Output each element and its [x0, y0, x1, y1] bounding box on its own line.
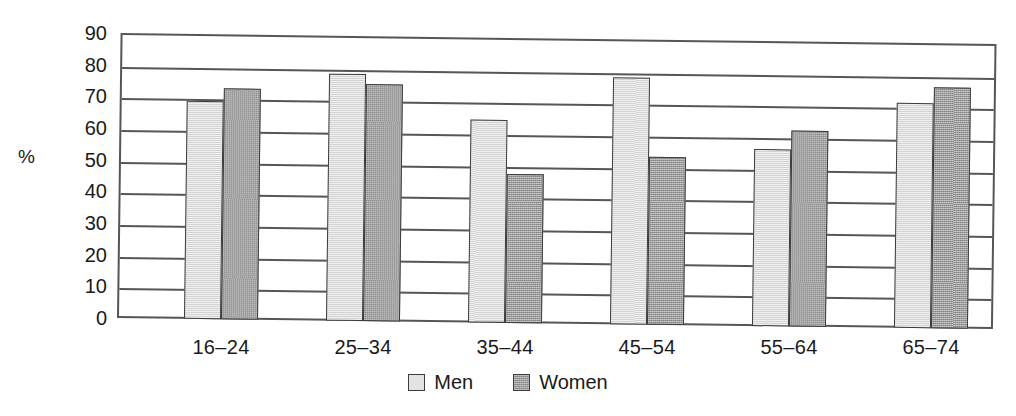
bar-men — [326, 74, 366, 321]
legend-swatch-women — [513, 374, 530, 391]
bar-women — [647, 157, 686, 325]
chart-legend: MenWomen — [0, 371, 1016, 394]
y-tick-label: 10 — [55, 276, 107, 296]
bars-layer — [117, 33, 997, 329]
y-tick-label: 90 — [55, 23, 107, 43]
bar-group — [610, 39, 688, 325]
y-axis-tick-labels: 9080706050403020100 — [55, 0, 107, 416]
y-tick-label: 80 — [55, 55, 107, 75]
x-tick-label: 16–24 — [161, 336, 281, 359]
bar-women — [931, 88, 971, 329]
bar-men — [894, 103, 934, 328]
legend-label: Men — [434, 371, 473, 394]
legend-item: Women — [513, 371, 608, 394]
y-axis-title: % — [18, 146, 35, 168]
y-tick-label: 30 — [55, 213, 107, 233]
x-tick-label: 45–54 — [587, 336, 707, 359]
bar-men — [610, 77, 650, 324]
legend-swatch-men — [408, 374, 425, 391]
bar-men — [468, 120, 508, 323]
plot-area-wrapper — [117, 33, 997, 329]
y-tick-label: 0 — [55, 308, 107, 328]
bar-women — [363, 84, 403, 322]
bar-group — [326, 36, 404, 322]
x-tick-label: 65–74 — [871, 336, 991, 359]
bar-group — [752, 41, 830, 327]
y-tick-label: 40 — [55, 181, 107, 201]
x-tick-label: 35–44 — [445, 336, 565, 359]
legend-item: Men — [408, 371, 473, 394]
bar-men — [752, 149, 791, 327]
y-tick-label: 60 — [55, 118, 107, 138]
bar-men — [184, 100, 224, 319]
x-tick-label: 55–64 — [729, 336, 849, 359]
bar-women — [789, 130, 828, 327]
bar-group — [468, 37, 546, 323]
x-tick-label: 25–34 — [303, 336, 423, 359]
bar-group — [184, 34, 262, 320]
bar-chart: % 9080706050403020100 16–2425–3435–4445–… — [0, 0, 1016, 416]
y-tick-label: 70 — [55, 86, 107, 106]
legend-label: Women — [539, 371, 608, 394]
y-tick-label: 50 — [55, 150, 107, 170]
bar-women — [221, 88, 261, 320]
bar-group — [894, 43, 972, 329]
y-tick-label: 20 — [55, 245, 107, 265]
bar-women — [505, 174, 544, 323]
